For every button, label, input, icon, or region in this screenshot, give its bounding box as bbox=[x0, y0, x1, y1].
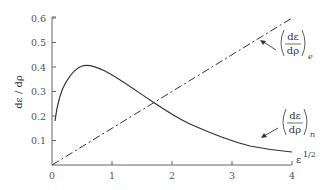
annotation-e-numerator: dε bbox=[287, 31, 299, 42]
series-e-line bbox=[52, 18, 292, 165]
y-tick-label: 0.6 bbox=[31, 13, 46, 24]
y-tick-label: 0.4 bbox=[31, 62, 46, 73]
x-axis-label-sup: 1/2 bbox=[303, 150, 316, 159]
x-tick-label: 2 bbox=[169, 170, 175, 181]
x-tick-label: 4 bbox=[289, 170, 295, 181]
annotation-e-denominator: dρ bbox=[287, 45, 299, 56]
y-axis-label: dε / dρ bbox=[13, 75, 24, 109]
annotation-n-denominator: dρ bbox=[289, 124, 301, 135]
y-tick-labels: 0.1 0.2 0.3 0.4 0.5 0.6 bbox=[31, 13, 46, 147]
x-tick-label: 0 bbox=[49, 170, 55, 181]
x-axis-label: ε 1/2 bbox=[296, 150, 316, 165]
y-tick-label: 0.2 bbox=[31, 111, 46, 122]
y-tick-label: 0.1 bbox=[31, 135, 46, 146]
y-ticks bbox=[52, 18, 56, 141]
x-tick-labels: 0 1 2 3 4 bbox=[49, 170, 295, 181]
series-n-curve bbox=[55, 65, 292, 152]
chart: 0.1 0.2 0.3 0.4 0.5 0.6 0 1 2 3 4 dε / d… bbox=[0, 0, 331, 190]
arrow-n-icon bbox=[261, 133, 267, 138]
x-ticks bbox=[112, 161, 292, 165]
annotation-n-numerator: dε bbox=[289, 110, 301, 121]
y-tick-label: 0.5 bbox=[31, 37, 46, 48]
y-tick-label: 0.3 bbox=[31, 86, 46, 97]
annotation-e: dε dρ e bbox=[260, 30, 313, 61]
x-tick-label: 1 bbox=[109, 170, 115, 181]
x-tick-label: 3 bbox=[229, 170, 235, 181]
annotation-n: dε dρ n bbox=[261, 109, 315, 139]
x-axis-label-base: ε bbox=[296, 154, 301, 165]
annotation-n-subscript: n bbox=[310, 130, 315, 139]
annotation-e-subscript: e bbox=[308, 52, 313, 61]
